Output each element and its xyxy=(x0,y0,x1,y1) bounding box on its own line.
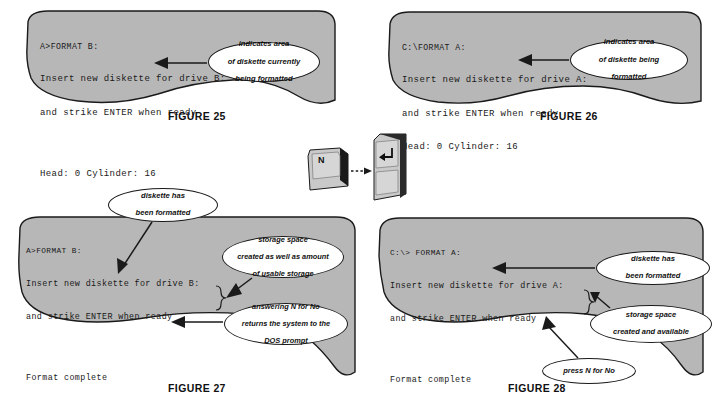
callout-line: answering N for No xyxy=(238,303,334,312)
figure-27-callout-diskette-formatted: diskette has been formatted xyxy=(108,188,218,222)
n-key-label: N xyxy=(318,155,325,165)
keyboard-illustration: N xyxy=(296,132,414,204)
terminal-line: C:\> FORMAT A: xyxy=(390,248,574,258)
figure-27-caption: FIGURE 27 xyxy=(168,382,226,394)
figure-27-callout-answering-n: answering N for No returns the system to… xyxy=(224,303,348,345)
callout-text: indicates area of diskette being formatt… xyxy=(591,38,667,82)
callout-text: storage space created as well as amount … xyxy=(229,236,337,279)
callout-text: answering N for No returns the system to… xyxy=(234,303,338,346)
callout-line: press N for No xyxy=(559,367,619,376)
terminal-blank-line xyxy=(40,141,226,147)
terminal-line: A>FORMAT B: xyxy=(26,246,205,256)
callout-line: of diskette currently xyxy=(224,58,305,67)
figure-26-terminal: C:\FORMAT A: Insert new diskette for dri… xyxy=(402,21,588,176)
terminal-line: and strike ENTER when ready xyxy=(26,312,205,323)
figure-25-callout-indicates-area: indicates area of diskette currently bei… xyxy=(208,42,320,82)
key-sequence-arrow xyxy=(351,168,372,175)
callout-line: been formatted xyxy=(622,272,685,281)
callout-text: diskette has been formatted xyxy=(618,255,689,281)
callout-line: formatted xyxy=(595,73,663,82)
terminal-line: Insert new diskette for drive A: xyxy=(390,281,574,292)
terminal-line: Insert new diskette for drive B: xyxy=(40,74,226,86)
callout-line: created and available xyxy=(609,328,693,337)
figure-27-terminal: A>FORMAT B: Insert new diskette for driv… xyxy=(26,224,205,403)
figure-28-callout-storage-space: storage space created and available xyxy=(590,305,712,343)
callout-text: diskette has been formatted xyxy=(128,192,199,218)
terminal-line: A>FORMAT B: xyxy=(40,42,226,53)
terminal-line: and strike ENTER when ready xyxy=(390,314,574,325)
figure-28-caption: FIGURE 28 xyxy=(508,382,566,394)
terminal-line: Head: 0 Cylinder: 16 xyxy=(40,169,226,181)
callout-line: diskette has xyxy=(132,192,195,201)
figure-28-callout-press-n: press N for No xyxy=(542,358,636,384)
callout-line: indicates area xyxy=(224,40,305,49)
terminal-line: Insert new diskette for drive B: xyxy=(26,279,205,290)
terminal-line: Head: 0 Cylinder: 16 xyxy=(402,142,588,154)
figure-sheet: A>FORMAT B: Insert new diskette for driv… xyxy=(0,0,719,403)
callout-line: created as well as amount xyxy=(233,253,333,262)
figure-26-callout-indicates-area: indicates area of diskette being formatt… xyxy=(570,40,688,80)
callout-line: of diskette being xyxy=(595,56,663,65)
callout-line: DOS prompt xyxy=(238,337,334,346)
callout-text: storage space created and available xyxy=(605,311,697,337)
n-key[interactable]: N xyxy=(308,148,348,190)
terminal-line: C:\FORMAT A: xyxy=(402,43,588,54)
figure-26-caption: FIGURE 26 xyxy=(540,110,598,122)
figure-27-callout-storage-space: storage space created as well as amount … xyxy=(222,236,344,278)
terminal-blank-line xyxy=(26,345,205,351)
callout-line: diskette has xyxy=(622,255,685,264)
callout-line: being formatted xyxy=(224,75,305,84)
terminal-line: Insert new diskette for drive A: xyxy=(402,75,588,87)
callout-line: storage space xyxy=(233,236,333,245)
enter-key[interactable] xyxy=(374,134,406,200)
figure-28-callout-diskette-formatted: diskette has been formatted xyxy=(596,251,710,285)
callout-line: returns the system to the xyxy=(238,320,334,329)
callout-line: been formatted xyxy=(132,209,195,218)
callout-text: press N for No xyxy=(555,367,623,376)
callout-text: indicates area of diskette currently bei… xyxy=(220,40,309,84)
callout-line: indicates area xyxy=(595,38,663,47)
callout-line: of usable storage xyxy=(233,270,333,279)
callout-line: storage space xyxy=(609,311,693,320)
figure-25-caption: FIGURE 25 xyxy=(168,110,226,122)
terminal-blank-line xyxy=(390,347,574,353)
figure-28-panel: C:\> FORMAT A: Insert new diskette for d… xyxy=(372,214,708,380)
